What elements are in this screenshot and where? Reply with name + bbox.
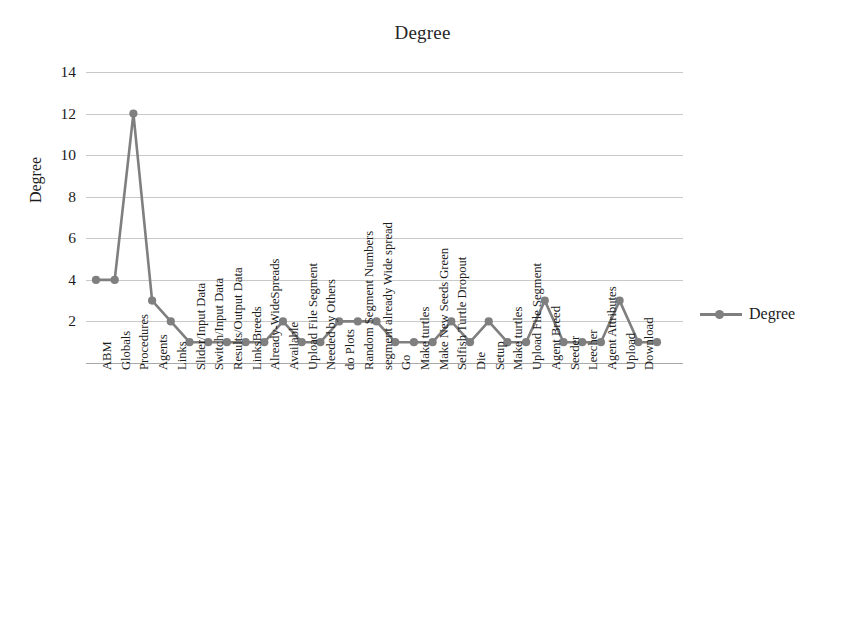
x-tick-label: Globals bbox=[120, 331, 133, 370]
x-tick-label: Procedures bbox=[138, 314, 151, 370]
legend-label-degree: Degree bbox=[749, 305, 795, 323]
x-tick-label: Upload File Segment bbox=[307, 263, 320, 370]
x-tick-label: segment already Wide spread bbox=[382, 222, 395, 370]
x-tick-label: Agent Attributes bbox=[606, 286, 619, 370]
y-tick-label: 4 bbox=[36, 272, 76, 288]
y-tick-label: 12 bbox=[36, 106, 76, 122]
y-tick-label: 14 bbox=[36, 64, 76, 80]
x-tick-label: Needed by Others bbox=[325, 279, 338, 370]
x-tick-label: Selfish Turtle Dropout bbox=[456, 257, 469, 370]
x-tick-label: Upload bbox=[625, 333, 638, 370]
y-tick-label: 8 bbox=[36, 189, 76, 205]
x-tick-label: Download bbox=[643, 318, 656, 370]
gridline bbox=[86, 72, 683, 73]
x-tick-label: Make turtles bbox=[419, 307, 432, 370]
x-tick-label: Agent Breed bbox=[550, 306, 563, 370]
x-tick-label: LinksBreeds bbox=[251, 306, 264, 370]
x-tick-label: Results/Output Data bbox=[232, 268, 245, 371]
chart-legend: Degree bbox=[700, 305, 795, 323]
y-tick-label: 6 bbox=[36, 230, 76, 246]
chart-container: Degree Degree 2468101214 ABMGlobalsProce… bbox=[0, 0, 845, 620]
x-tick-label: Go bbox=[400, 355, 413, 370]
x-tick-label: Make turtles bbox=[512, 307, 525, 370]
y-axis-title: Degree bbox=[27, 125, 45, 235]
y-tick-label: 10 bbox=[36, 147, 76, 163]
legend-swatch-degree bbox=[700, 308, 742, 320]
x-tick-label: Available bbox=[288, 322, 301, 370]
x-tick-label: Make New Seeds Green bbox=[438, 248, 451, 370]
x-tick-label: ABM bbox=[101, 341, 114, 370]
x-tick-label: Seeder bbox=[569, 336, 582, 370]
x-tick-label: Slider/Input Data bbox=[195, 283, 208, 370]
y-tick-label: 2 bbox=[36, 313, 76, 329]
x-tick-label: Die bbox=[475, 352, 488, 370]
x-tick-label: Upload File Segment bbox=[531, 263, 544, 370]
x-tick-label: Leecher bbox=[587, 329, 600, 370]
x-tick-label: Setup bbox=[494, 341, 507, 370]
gridline bbox=[86, 197, 683, 198]
legend-marker-icon bbox=[715, 310, 724, 319]
x-tick-label: Already-WideSpreads bbox=[269, 259, 282, 370]
x-tick-label: do Plots bbox=[344, 329, 357, 370]
x-tick-label: Links bbox=[176, 341, 189, 370]
x-tick-label: Agents bbox=[157, 334, 170, 370]
gridline bbox=[86, 114, 683, 115]
x-tick-label: Switch/Input Data bbox=[213, 278, 226, 370]
x-tick-label: Random Segment Numbers bbox=[363, 231, 376, 370]
gridline bbox=[86, 155, 683, 156]
chart-title: Degree bbox=[0, 22, 845, 44]
